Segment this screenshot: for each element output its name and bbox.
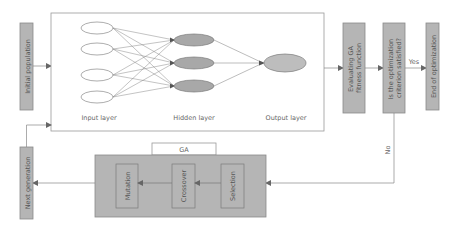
next-generation-box: Next generation xyxy=(20,147,33,219)
hidden-node xyxy=(174,80,214,92)
arrow-next-generation-to-nn xyxy=(27,125,52,147)
next-generation-label: Next generation xyxy=(24,157,32,210)
hidden-layer-nodes xyxy=(174,34,214,92)
hidden-layer-label: Hidden layer xyxy=(173,114,215,122)
output-layer-label: Output layer xyxy=(266,114,307,122)
input-node xyxy=(81,69,113,81)
ga-step-selection: Selection xyxy=(221,164,244,208)
crossover-label: Crossover xyxy=(180,170,188,203)
yes-label: Yes xyxy=(408,58,420,66)
input-node xyxy=(81,91,113,103)
evaluating-fitness-box: Evaluating GA fitness function xyxy=(343,23,365,113)
initial-population-label: Initial population xyxy=(24,39,32,94)
input-layer-label: Input layer xyxy=(81,114,117,122)
neural-network-panel: Input layer Hidden layer Output layer xyxy=(51,13,324,131)
output-node xyxy=(264,54,306,72)
ga-title: GA xyxy=(179,146,189,154)
end-of-optimization-label: End of optimization xyxy=(430,35,438,98)
end-of-optimization-box: End of optimization xyxy=(426,23,439,110)
evaluating-fitness-label: Evaluating GA fitness function xyxy=(347,43,363,93)
no-label: No xyxy=(384,146,392,155)
mutation-label: Mutation xyxy=(124,172,132,201)
hidden-node xyxy=(174,57,214,69)
ga-step-mutation: Mutation xyxy=(116,164,138,208)
criterion-label: Is the optimization criterion satisfied? xyxy=(387,37,403,100)
ga-step-crossover: Crossover xyxy=(172,164,195,208)
evaluating-line-1: Evaluating GA xyxy=(347,45,355,92)
ga-block: GA Selection Crossover Mutation xyxy=(95,143,266,217)
criterion-line-2: criterion satisfied? xyxy=(395,38,403,98)
ga-nn-optimization-flowchart: Initial population xyxy=(0,0,455,229)
criterion-line-1: Is the optimization xyxy=(387,39,395,100)
criterion-decision-box: Is the optimization criterion satisfied? xyxy=(383,23,405,113)
hidden-node xyxy=(174,34,214,46)
input-node xyxy=(81,22,113,34)
selection-label: Selection xyxy=(229,171,237,201)
input-node xyxy=(81,43,113,55)
initial-population-box: Initial population xyxy=(20,23,33,110)
evaluating-line-2: fitness function xyxy=(355,43,363,93)
